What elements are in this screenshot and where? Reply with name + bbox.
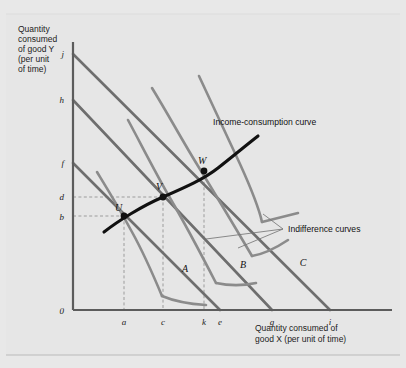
x-axis-title: Quantity consumed of good X (per unit of… <box>255 323 346 344</box>
x-tick-label-a: a <box>122 317 127 327</box>
x-axis-title-line-1: Quantity consumed of <box>255 323 338 333</box>
y-axis-title-line-3: of good Y <box>18 44 55 54</box>
point-marker-W <box>201 168 208 175</box>
y-tick-label-j: j <box>60 49 64 59</box>
y-tick-label-h: h <box>60 95 65 105</box>
y-tick-label-b: b <box>60 212 65 222</box>
y-axis-title-line-4: (per unit <box>18 54 50 64</box>
point-label-U: U <box>115 202 123 213</box>
x-tick-label-c: c <box>161 317 165 327</box>
y-axis-title-line-5: of time) <box>18 64 47 74</box>
origin-label: 0 <box>60 306 65 316</box>
y-tick-label-d: d <box>60 192 65 202</box>
x-axis-title-line-2: good X (per unit of time) <box>255 334 346 344</box>
y-axis-title-line-2: consumed <box>18 34 57 44</box>
x-tick-label-e: e <box>218 317 222 327</box>
curve-label-B: B <box>240 259 246 270</box>
point-marker-V <box>160 194 167 201</box>
y-axis-title-line-1: Quantity <box>18 24 50 34</box>
curve-label-C: C <box>300 257 307 268</box>
curve-label-A: A <box>181 263 189 274</box>
annotation-income-consumption-curve: Income-consumption curve <box>213 117 316 127</box>
income-consumption-curve-figure: U V W j h f d b 0 a c k e g i A B C Quan… <box>0 0 406 368</box>
point-marker-U <box>121 213 128 220</box>
annotation-indifference-curves: Indifference curves <box>288 224 360 234</box>
